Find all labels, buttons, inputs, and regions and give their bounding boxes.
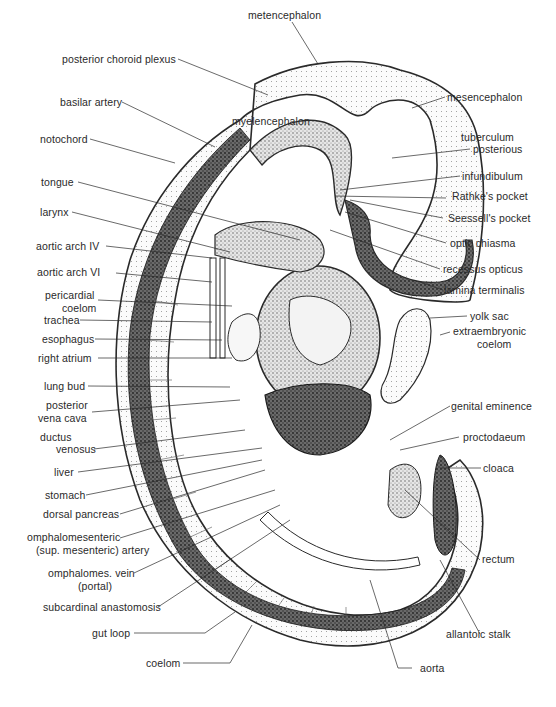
yolk-sac	[381, 309, 431, 403]
label-posterious: posterious	[473, 143, 522, 155]
label-allantoic-stalk: allantoic stalk	[446, 628, 511, 640]
label-extraembryonic: extraembryonic	[453, 325, 526, 337]
label-trachea: trachea	[44, 314, 80, 326]
embryo-sagittal-diagram: posterior choroid plexus basilar artery …	[0, 0, 556, 707]
label-posterior-choroid-plexus: posterior choroid plexus	[62, 53, 176, 65]
allantois	[388, 464, 421, 518]
label-myelencephalon: myelencephalon	[232, 115, 310, 127]
label-tuberculum: tuberculum	[461, 131, 514, 143]
label-recessus-opticus: recessus opticus	[443, 263, 523, 275]
label-ductus: ductus	[40, 431, 72, 443]
label-tongue: tongue	[41, 176, 74, 188]
label-posterior: posterior	[46, 399, 88, 411]
label-metencephalon: metencephalon	[248, 9, 321, 21]
label-extraembryonic-coelom: coelom	[477, 338, 511, 350]
label-seessells-pocket: Seessell's pocket	[448, 212, 531, 224]
label-aorta: aorta	[420, 662, 444, 674]
label-subcardinal-anastomosis: subcardinal anastomosis	[43, 601, 161, 613]
label-rathkes-pocket: Rathke's pocket	[452, 190, 528, 202]
label-omphalomes-vein: omphalomes. vein	[48, 567, 135, 579]
right-atrium-shape	[228, 314, 260, 361]
label-vena-cava: vena cava	[38, 412, 87, 424]
label-stomach: stomach	[45, 489, 85, 501]
label-venosus: venosus	[56, 443, 96, 455]
esophagus-tube	[220, 258, 225, 358]
label-pericardial-coelom: coelom	[62, 302, 96, 314]
tongue	[215, 222, 324, 272]
label-lamina-terminalis: lamina terminalis	[444, 284, 524, 296]
label-lung-bud: lung bud	[44, 380, 85, 392]
label-esophagus: esophagus	[42, 333, 94, 345]
label-cloaca: cloaca	[483, 462, 514, 474]
label-optic-chiasma: optic chiasma	[450, 237, 516, 249]
label-liver: liver	[54, 466, 74, 478]
label-aortic-arch-vi: aortic arch VI	[37, 266, 100, 278]
label-infundibulum: infundibulum	[462, 170, 523, 182]
gut-loop	[260, 512, 420, 570]
brain-vesicle-wall	[250, 120, 351, 215]
label-mesencephalon: mesencephalon	[447, 91, 522, 103]
label-genital-eminence: genital eminence	[451, 400, 532, 412]
liver	[265, 384, 371, 455]
label-rectum: rectum	[482, 553, 515, 565]
trachea-tube	[210, 258, 216, 358]
label-basilar-artery: basilar artery	[60, 96, 122, 108]
label-pericardial: pericardial	[45, 289, 95, 301]
label-right-atrium: right atrium	[38, 352, 92, 364]
label-gut-loop: gut loop	[92, 627, 130, 639]
label-sup-mesenteric-artery: (sup. mesenteric) artery	[36, 544, 149, 556]
label-notochord: notochord	[40, 133, 88, 145]
label-aortic-arch-iv: aortic arch IV	[36, 240, 99, 252]
label-portal: (portal)	[78, 580, 112, 592]
label-dorsal-pancreas: dorsal pancreas	[43, 508, 119, 520]
label-larynx: larynx	[40, 206, 69, 218]
label-proctodaeum: proctodaeum	[463, 431, 525, 443]
label-coelom: coelom	[146, 657, 180, 669]
label-yolk-sac: yolk sac	[470, 310, 509, 322]
label-omphalomesenteric: omphalomesenteric	[27, 531, 120, 543]
